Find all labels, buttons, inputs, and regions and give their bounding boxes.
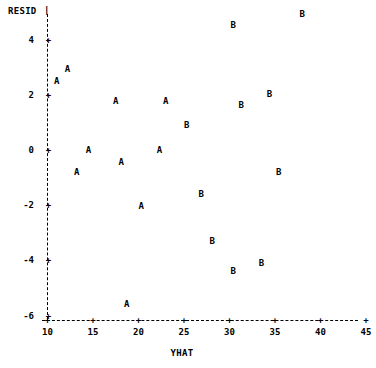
data-point-A: A — [122, 300, 131, 309]
data-point-A: A — [72, 168, 81, 177]
x-tick-mark: + — [225, 316, 234, 325]
x-tick-label: 20 — [127, 328, 151, 337]
y-tick-label: -6 — [8, 312, 34, 321]
y-tick-label: 0 — [8, 146, 34, 155]
data-point-A: A — [161, 97, 170, 106]
data-point-B: B — [197, 190, 206, 199]
data-point-A: A — [117, 158, 126, 167]
y-tick-label: 2 — [8, 91, 34, 100]
x-tick-label: 40 — [309, 328, 333, 337]
data-point-B: B — [274, 168, 283, 177]
data-point-B: B — [257, 259, 266, 268]
data-point-A: A — [84, 146, 93, 155]
y-tick-mark: + — [44, 36, 53, 45]
data-point-B: B — [265, 90, 274, 99]
y-tick-mark: + — [44, 201, 53, 210]
data-point-A: A — [63, 65, 72, 74]
x-tick-mark: + — [362, 316, 371, 325]
x-tick-mark: + — [271, 316, 280, 325]
data-point-A: A — [137, 202, 146, 211]
x-tick-mark: + — [43, 316, 52, 325]
data-point-B: B — [208, 237, 217, 246]
data-point-B: B — [182, 121, 191, 130]
data-point-A: A — [155, 146, 164, 155]
y-tick-label: 4 — [8, 36, 34, 45]
x-tick-mark: + — [316, 316, 325, 325]
data-point-B: B — [237, 101, 246, 110]
y-tick-mark: + — [44, 256, 53, 265]
y-axis-title: RESID — [8, 6, 37, 16]
x-axis-title: YHAT — [0, 348, 364, 358]
x-tick-label: 45 — [354, 328, 376, 337]
x-tick-label: 35 — [263, 328, 287, 337]
y-tick-label: -4 — [8, 256, 34, 265]
x-tick-mark: + — [134, 316, 143, 325]
x-tick-label: 25 — [172, 328, 196, 337]
x-tick-mark: + — [89, 316, 98, 325]
data-point-A: A — [111, 97, 120, 106]
y-axis-line — [47, 14, 48, 320]
data-point-B: B — [229, 21, 238, 30]
x-tick-label: 15 — [81, 328, 105, 337]
data-point-B: B — [298, 10, 307, 19]
data-point-B: B — [229, 267, 238, 276]
y-tick-label: -2 — [8, 201, 34, 210]
x-tick-label: 10 — [36, 328, 60, 337]
x-tick-mark: + — [180, 316, 189, 325]
x-tick-label: 30 — [218, 328, 242, 337]
y-tick-mark: + — [44, 91, 53, 100]
data-point-A: A — [52, 77, 61, 86]
y-tick-mark: + — [44, 146, 53, 155]
